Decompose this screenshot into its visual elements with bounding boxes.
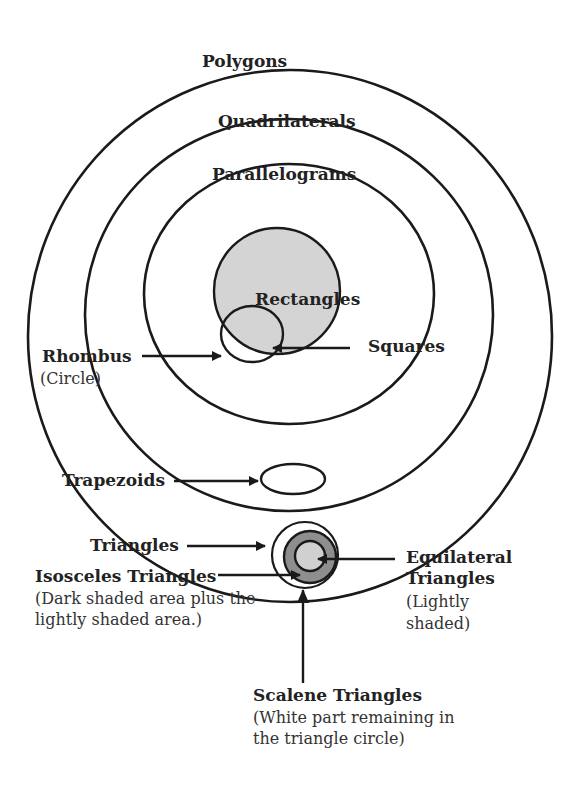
trapezoids-ellipse: [261, 464, 325, 494]
isosceles-label: Isosceles Triangles: [35, 566, 216, 586]
equilateral-label-line2: Triangles: [406, 568, 495, 588]
equilateral-note-line1: (Lightly: [406, 592, 469, 611]
scalene-label: Scalene Triangles: [253, 685, 422, 705]
equilateral-label-line1: Equilateral: [406, 547, 513, 567]
trapezoids-label: Trapezoids: [62, 470, 165, 490]
triangles-label: Triangles: [90, 535, 179, 555]
isosceles-note-line1: (Dark shaded area plus the: [35, 589, 256, 608]
rhombus-label: Rhombus: [42, 346, 132, 366]
rhombus-note: (Circle): [40, 369, 101, 388]
polygon-venn-diagram: Polygons Quadrilaterals Parallelograms R…: [0, 0, 574, 786]
polygons-label: Polygons: [202, 51, 287, 71]
scalene-note-line2: the triangle circle): [253, 729, 405, 748]
parallelograms-label: Parallelograms: [212, 164, 356, 184]
rectangles-label: Rectangles: [255, 289, 360, 309]
squares-label: Squares: [368, 336, 445, 356]
equilateral-shaded-circle: [295, 541, 325, 571]
quadrilaterals-label: Quadrilaterals: [218, 111, 356, 131]
scalene-note-line1: (White part remaining in: [253, 708, 454, 727]
isosceles-note-line2: lightly shaded area.): [35, 610, 202, 629]
equilateral-note-line2: shaded): [406, 614, 470, 633]
